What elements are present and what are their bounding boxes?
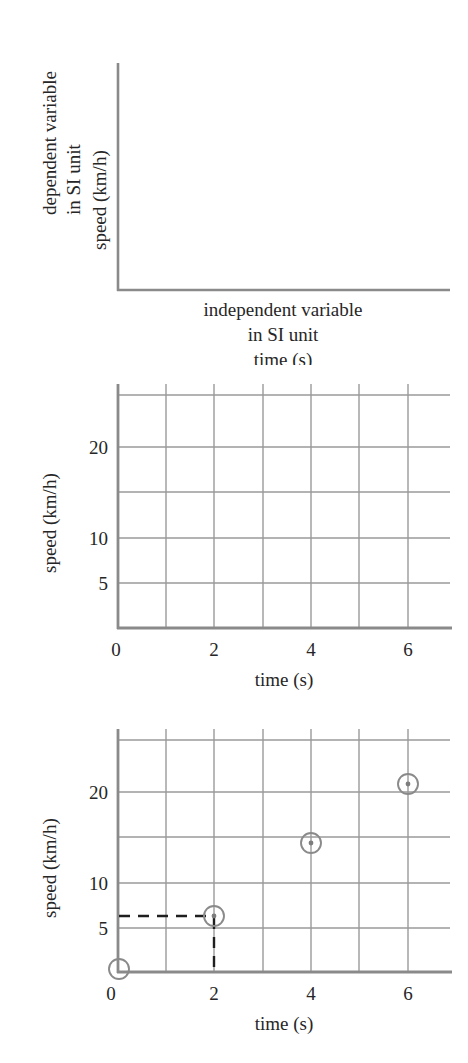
panel1-x-caption-line-2: in SI unit bbox=[248, 324, 319, 345]
panel1-x-caption-line-3: time (s) bbox=[254, 349, 313, 365]
panel1-y-caption-line-2: in SI unit bbox=[63, 144, 84, 215]
panel3-y-tick-5: 5 bbox=[99, 918, 109, 939]
panel3-x-tick-0: 0 bbox=[106, 983, 116, 1004]
panel-empty-grid: 20 10 5 0 2 4 6 speed (km/h) time (s) bbox=[0, 368, 468, 693]
panel2-x-tick-0: 0 bbox=[111, 639, 121, 660]
panel-blank-axes: dependent variable in SI unit speed (km/… bbox=[0, 0, 468, 365]
panel3-horizontal-gridlines bbox=[118, 740, 450, 928]
panel1-x-caption-line-1: independent variable bbox=[204, 299, 363, 320]
panel3-x-axis-label: time (s) bbox=[255, 1013, 314, 1035]
panel2-horizontal-gridlines bbox=[118, 395, 450, 583]
panel3-vertical-gridlines bbox=[166, 729, 408, 972]
panel3-y-tick-20: 20 bbox=[89, 782, 108, 803]
panel2-vertical-gridlines bbox=[166, 384, 408, 628]
panel2-x-tick-4: 4 bbox=[306, 639, 316, 660]
panel2-y-tick-10: 10 bbox=[89, 528, 108, 549]
panel1-y-caption-line-1: dependent variable bbox=[39, 71, 60, 215]
panel3-y-axis-label: speed (km/h) bbox=[39, 818, 61, 918]
panel3-y-tick-10: 10 bbox=[89, 873, 108, 894]
panel2-x-axis-label: time (s) bbox=[255, 669, 314, 691]
panel1-y-caption-line-3: speed (km/h) bbox=[89, 150, 111, 250]
panel2-y-tick-5: 5 bbox=[99, 573, 109, 594]
panel3-x-tick-4: 4 bbox=[306, 983, 316, 1004]
panel2-x-tick-2: 2 bbox=[209, 639, 219, 660]
panel2-y-axis-label: speed (km/h) bbox=[39, 473, 61, 573]
panel2-x-tick-6: 6 bbox=[403, 639, 413, 660]
panel3-x-tick-6: 6 bbox=[403, 983, 413, 1004]
panel-plotted-points: 20 10 5 0 2 4 6 speed (km/h) time (s) bbox=[0, 708, 468, 1063]
panel3-x-tick-2: 2 bbox=[209, 983, 219, 1004]
physics-speed-time-figure: dependent variable in SI unit speed (km/… bbox=[0, 0, 468, 1063]
panel2-y-tick-20: 20 bbox=[89, 437, 108, 458]
